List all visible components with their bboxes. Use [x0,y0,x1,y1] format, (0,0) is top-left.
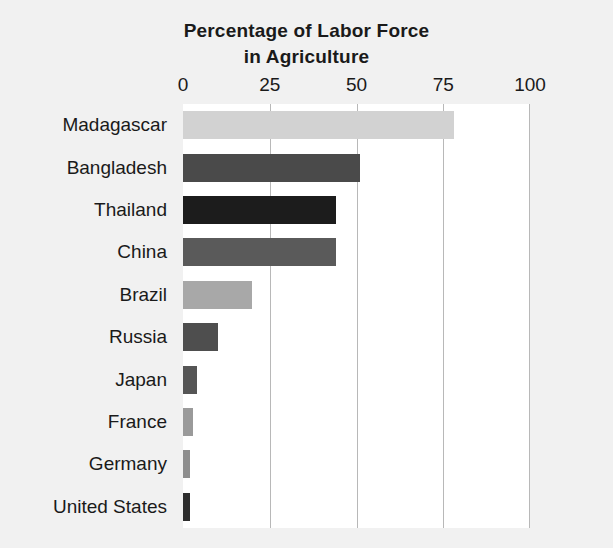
bar [183,450,190,478]
category-axis-label: France [0,410,175,434]
x-axis-tick-labels: 0255075100 [0,74,613,100]
category-axis-label: United States [0,495,175,519]
category-axis-label: Thailand [0,198,175,222]
bar [183,196,336,224]
bar [183,154,360,182]
category-axis-label: Germany [0,452,175,476]
category-axis-label: Japan [0,368,175,392]
chart-title-line-2: in Agriculture [0,44,613,70]
category-axis-label: Madagascar [0,113,175,137]
bar [183,238,336,266]
bar [183,111,454,139]
chart-title-line-1: Percentage of Labor Force [0,18,613,44]
plot-area [183,104,530,528]
bar [183,281,252,309]
chart-page: Percentage of Labor Force in Agriculture… [0,0,613,548]
bar [183,323,218,351]
bar-series [183,104,530,528]
category-axis-label: China [0,240,175,264]
category-axis-label: Brazil [0,283,175,307]
x-axis-tick-label: 25 [259,74,280,96]
x-axis-tick-label: 100 [514,74,546,96]
chart-title: Percentage of Labor Force in Agriculture [0,18,613,70]
category-axis-label: Bangladesh [0,156,175,180]
category-axis-labels: MadagascarBangladeshThailandChinaBrazilR… [0,104,175,528]
bar [183,493,190,521]
x-axis-tick-label: 0 [178,74,189,96]
bar [183,366,197,394]
x-axis-tick-label: 75 [433,74,454,96]
x-axis-tick-label: 50 [346,74,367,96]
category-axis-label: Russia [0,325,175,349]
bar [183,408,193,436]
